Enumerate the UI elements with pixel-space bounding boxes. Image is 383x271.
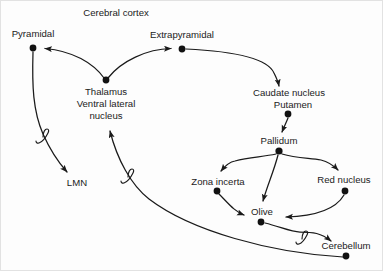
node-dot-pallidum[interactable] bbox=[275, 147, 282, 154]
node-label-extrapyramidal: Extrapyramidal bbox=[150, 29, 214, 40]
node-dot-red-nucleus[interactable] bbox=[342, 188, 349, 195]
edge-pyramidal-to-lmn bbox=[33, 52, 67, 172]
node-dot-zona-incerta[interactable] bbox=[214, 188, 221, 195]
node-dot-cerebellum[interactable] bbox=[343, 253, 350, 260]
edge-red-nucleus-to-olive bbox=[286, 195, 344, 217]
edge-thalamus-to-extrapyramidal bbox=[108, 49, 171, 79]
edge-thalamus-to-pyramidal bbox=[45, 49, 104, 79]
edge-layer bbox=[33, 49, 344, 258]
edge-extrapyramidal-to-caudate bbox=[186, 49, 279, 86]
node-dot-caudate[interactable] bbox=[285, 111, 292, 118]
diagram-canvas: Cerebral cortex Pyramidal Extrapyramidal… bbox=[1, 1, 383, 271]
node-label-thalamus-line3: nucleus bbox=[89, 110, 122, 121]
integral-symbol-olive-cerebellum bbox=[296, 231, 308, 244]
edge-caudate-to-pallidum bbox=[282, 118, 288, 132]
node-dot-thalamus[interactable] bbox=[103, 77, 110, 84]
node-label-red-nucleus: Red nucleus bbox=[317, 174, 371, 185]
cerebral-cortex-diagram: Cerebral cortex Pyramidal Extrapyramidal… bbox=[0, 0, 383, 271]
edge-pallidum-to-zona-incerta bbox=[221, 154, 276, 171]
edge-olive-to-cerebellum bbox=[265, 223, 331, 241]
node-label-pallidum: Pallidum bbox=[261, 135, 298, 146]
node-dot-olive[interactable] bbox=[258, 219, 265, 226]
edge-zona-incerta-to-olive bbox=[219, 194, 244, 215]
node-dot-pyramidal[interactable] bbox=[30, 45, 37, 52]
node-label-lmn: LMN bbox=[67, 177, 87, 188]
node-label-zona-incerta: Zona incerta bbox=[191, 176, 245, 187]
node-label-caudate-line2: Putamen bbox=[274, 99, 312, 110]
node-label-cerebellum: Cerebellum bbox=[321, 240, 370, 251]
node-dot-layer bbox=[30, 45, 350, 260]
node-label-thalamus-line1: Thalamus bbox=[85, 86, 127, 97]
edge-pallidum-to-olive bbox=[263, 155, 278, 201]
node-dot-extrapyramidal[interactable] bbox=[179, 46, 186, 53]
diagram-title: Cerebral cortex bbox=[83, 7, 149, 18]
label-layer: Cerebral cortex Pyramidal Extrapyramidal… bbox=[12, 7, 371, 251]
node-label-caudate-line1: Caudate nucleus bbox=[253, 87, 325, 98]
edge-pallidum-to-red-nucleus bbox=[282, 154, 338, 170]
edge-cerebellum-to-thalamus bbox=[110, 131, 343, 257]
node-label-pyramidal: Pyramidal bbox=[12, 28, 55, 39]
node-label-thalamus-line2: Ventral lateral bbox=[77, 98, 136, 109]
node-label-olive: Olive bbox=[251, 206, 273, 217]
